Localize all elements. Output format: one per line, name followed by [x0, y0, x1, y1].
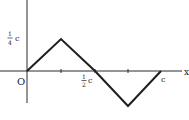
x-label-half-c: 1 2 c — [82, 73, 94, 88]
x-label-c: c — [161, 75, 166, 84]
half-label-unit: c — [88, 76, 93, 85]
y-label-unit: c — [15, 34, 20, 43]
triangle-wave-diagram: O x 1 4 c 1 2 c c — [0, 0, 189, 120]
y-label-numerator: 1 — [8, 30, 12, 37]
y-label-quarter-c: 1 4 c — [8, 30, 21, 46]
triangle-wave-line — [27, 39, 161, 106]
half-label-numerator: 1 — [82, 73, 86, 80]
origin-label: O — [17, 76, 25, 87]
y-label-denominator: 4 — [8, 39, 12, 46]
half-label-denominator: 2 — [82, 81, 86, 88]
x-axis-label: x — [184, 67, 189, 77]
